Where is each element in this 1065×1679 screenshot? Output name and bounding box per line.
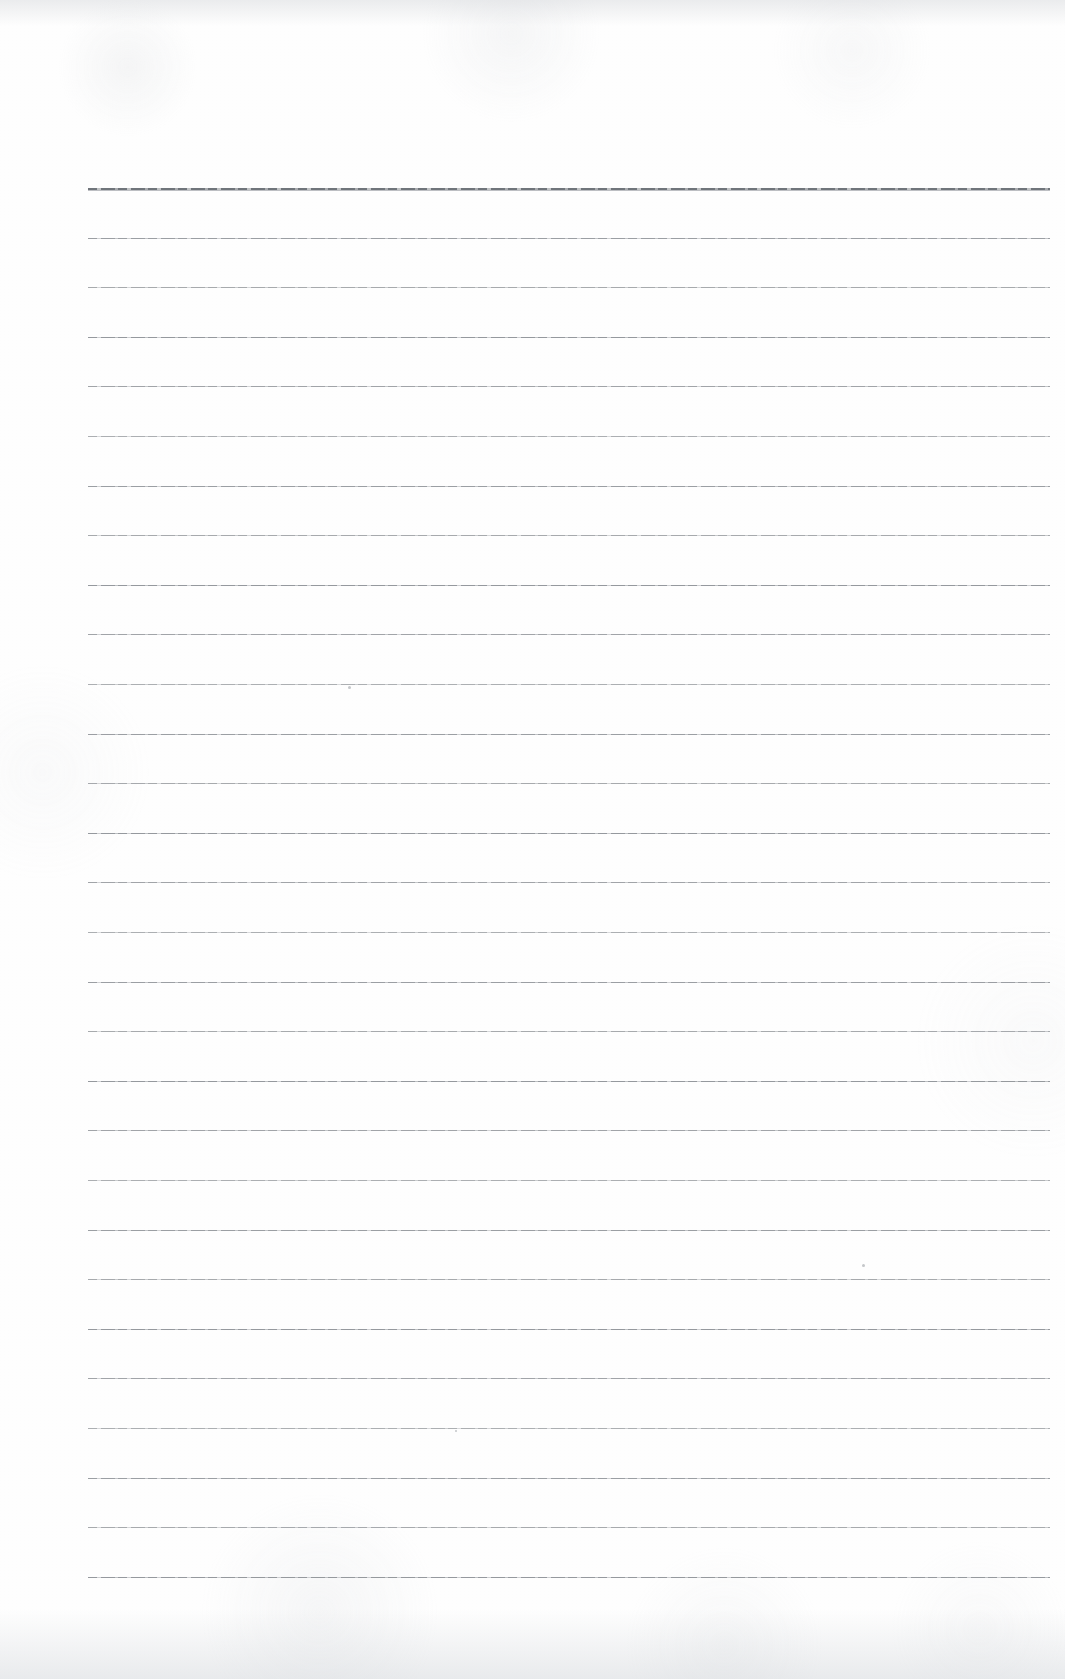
- rule-line: [88, 634, 1050, 635]
- rule-line: [88, 1081, 1050, 1082]
- rule-line: [88, 1428, 1050, 1429]
- rule-line: [88, 238, 1050, 239]
- rule-line: [88, 1329, 1050, 1330]
- scanned-page: [0, 0, 1065, 1679]
- rule-line: [88, 486, 1050, 487]
- rule-line: [88, 882, 1050, 883]
- header-rule-line: [88, 188, 1050, 190]
- rule-line: [88, 833, 1050, 834]
- rule-line: [88, 337, 1050, 338]
- rule-line: [88, 1478, 1050, 1479]
- rule-line: [88, 1527, 1050, 1528]
- rule-line: [88, 783, 1050, 784]
- rule-line: [88, 585, 1050, 586]
- rule-line: [88, 386, 1050, 387]
- rule-line: [88, 684, 1050, 685]
- rule-line: [88, 982, 1050, 983]
- rule-line: [88, 535, 1050, 536]
- rule-line: [88, 1031, 1050, 1032]
- ruled-lines-group: [0, 0, 1065, 1679]
- rule-line: [88, 1230, 1050, 1231]
- rule-line: [88, 287, 1050, 288]
- rule-line: [88, 436, 1050, 437]
- rule-line: [88, 1577, 1050, 1578]
- rule-line: [88, 1130, 1050, 1131]
- rule-line: [88, 1378, 1050, 1379]
- rule-line: [88, 1279, 1050, 1280]
- rule-line: [88, 1180, 1050, 1181]
- rule-line: [88, 734, 1050, 735]
- rule-line: [88, 932, 1050, 933]
